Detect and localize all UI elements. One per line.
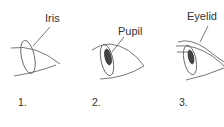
eye-step-3-drawing <box>176 26 224 80</box>
eyelid-label: Eyelid <box>187 11 217 22</box>
iris-label: Iris <box>45 13 60 24</box>
eye-step-1-drawing <box>11 27 60 76</box>
pupil-label: Pupil <box>118 26 142 37</box>
step-3-number: 3. <box>179 97 188 108</box>
eye-step-2-drawing <box>92 37 144 79</box>
step-2-number: 2. <box>92 97 101 108</box>
step-1-number: 1. <box>18 97 27 108</box>
